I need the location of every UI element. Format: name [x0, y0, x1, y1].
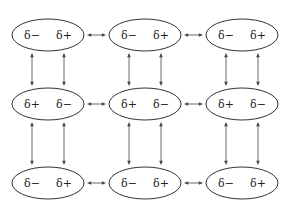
molecule-ellipse	[206, 19, 278, 51]
v-arrow-left-r1-c1	[127, 122, 131, 165]
h-arrow-r0-c1	[184, 33, 203, 37]
dipole-molecule-r2-c2: δ−δ+	[206, 167, 278, 199]
left-charge-label: δ−	[121, 177, 137, 190]
molecule-ellipse	[109, 88, 181, 120]
left-charge-label: δ−	[24, 29, 40, 42]
dipole-molecule-r0-c1: δ−δ+	[109, 19, 181, 51]
left-charge-label: δ−	[121, 29, 137, 42]
right-charge-label: δ+	[250, 29, 266, 42]
dipole-molecule-r0-c0: δ−δ+	[12, 19, 84, 51]
v-arrow-right-r1-c2	[256, 122, 260, 165]
dipole-molecule-r1-c2: δ+δ−	[206, 88, 278, 120]
v-arrow-right-r1-c1	[159, 122, 163, 165]
molecule-ellipse	[206, 167, 278, 199]
right-charge-label: δ−	[250, 98, 266, 111]
right-charge-label: δ−	[153, 98, 169, 111]
v-arrow-right-r0-c0	[62, 53, 66, 86]
molecule-ellipse	[12, 167, 84, 199]
right-charge-label: δ+	[56, 177, 72, 190]
left-charge-label: δ−	[24, 177, 40, 190]
v-arrow-right-r1-c0	[62, 122, 66, 165]
right-charge-label: δ+	[153, 29, 169, 42]
dipole-molecule-r0-c2: δ−δ+	[206, 19, 278, 51]
dipole-molecule-r1-c0: δ+δ−	[12, 88, 84, 120]
molecule-ellipse	[12, 88, 84, 120]
v-arrow-left-r0-c2	[224, 53, 228, 86]
left-charge-label: δ+	[24, 98, 40, 111]
dipole-lattice-diagram: δ−δ+δ−δ+δ−δ+δ+δ−δ+δ−δ+δ−δ−δ+δ−δ+δ−δ+	[0, 0, 289, 209]
dipole-molecule-r2-c0: δ−δ+	[12, 167, 84, 199]
right-charge-label: δ+	[153, 177, 169, 190]
right-charge-label: δ+	[56, 29, 72, 42]
h-arrow-r0-c0	[87, 33, 106, 37]
molecule-ellipse	[109, 167, 181, 199]
dipole-molecule-r2-c1: δ−δ+	[109, 167, 181, 199]
dipole-molecule-r1-c1: δ+δ−	[109, 88, 181, 120]
v-arrow-left-r0-c0	[30, 53, 34, 86]
left-charge-label: δ+	[218, 98, 234, 111]
right-charge-label: δ+	[250, 177, 266, 190]
h-arrow-r2-c0	[87, 181, 106, 185]
left-charge-label: δ−	[218, 177, 234, 190]
molecule-ellipse	[12, 19, 84, 51]
v-arrow-right-r0-c1	[159, 53, 163, 86]
v-arrow-right-r0-c2	[256, 53, 260, 86]
molecule-ellipse	[206, 88, 278, 120]
left-charge-label: δ−	[218, 29, 234, 42]
right-charge-label: δ−	[56, 98, 72, 111]
h-arrow-r1-c1	[184, 102, 203, 106]
h-arrow-r2-c1	[184, 181, 203, 185]
molecule-ellipse	[109, 19, 181, 51]
left-charge-label: δ+	[121, 98, 137, 111]
v-arrow-left-r0-c1	[127, 53, 131, 86]
h-arrow-r1-c0	[87, 102, 106, 106]
v-arrow-left-r1-c0	[30, 122, 34, 165]
v-arrow-left-r1-c2	[224, 122, 228, 165]
